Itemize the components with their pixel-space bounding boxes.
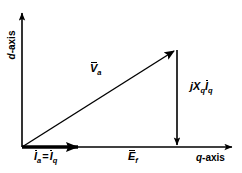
ia-subscript-2: q [53, 156, 58, 165]
jxqiq-vector-label: jXqIq [190, 80, 213, 92]
phasor-diagram-figure: d-axis q-axis Va Ef Ia=Iq jXqIq [0, 0, 242, 173]
d-axis-label-var: d [6, 53, 17, 59]
d-axis-label-suffix: -axis [6, 31, 17, 54]
ia-equals-sign: = [41, 150, 49, 162]
ia-vector-label: Ia=Iq [34, 150, 57, 162]
va-vector-label: Va [90, 62, 102, 74]
jxqiq-symbol: jX [190, 80, 200, 92]
ia-subscript: a [37, 156, 41, 165]
va-subscript: a [97, 68, 101, 77]
q-axis-label-suffix: -axis [202, 152, 225, 163]
ef-subscript: f [135, 156, 138, 165]
jxqiq-subscript-2: q [208, 86, 213, 95]
ef-vector-label: Ef [128, 150, 138, 162]
d-axis-label: d-axis [7, 25, 17, 65]
q-axis-label: q-axis [196, 153, 225, 163]
